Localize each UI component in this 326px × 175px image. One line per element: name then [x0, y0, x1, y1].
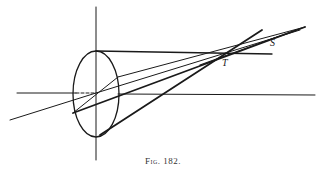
label-t: T [222, 57, 228, 68]
tangent-line-s [200, 30, 296, 65]
figure-caption: Fig. 182. [0, 156, 326, 166]
cone-diagram-svg [0, 0, 326, 175]
top-generator [96, 51, 272, 54]
generator-bottom [100, 30, 262, 135]
label-s: S [270, 37, 275, 48]
secant-line-left [10, 93, 96, 120]
horizontal-axis-right [118, 94, 315, 95]
